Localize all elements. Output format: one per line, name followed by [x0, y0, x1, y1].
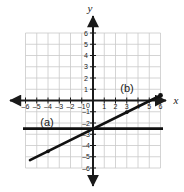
y-tick-label--2: –2 — [82, 120, 90, 127]
y-tick-label-3: 3 — [84, 63, 88, 70]
y-tick-label-5: 5 — [84, 41, 88, 48]
y-tick-label--4: –4 — [82, 142, 90, 149]
curve-label-a: (a) — [40, 116, 53, 128]
y-tick-label-2: 2 — [84, 75, 88, 82]
y-tick-label--1: –1 — [82, 108, 90, 115]
x-tick-label-3: 3 — [125, 103, 129, 110]
y-tick-label-1: 1 — [84, 86, 88, 93]
x-tick-label--4: –4 — [44, 103, 52, 110]
x-tick-label-6: 6 — [159, 103, 163, 110]
x-tick-label--5: –5 — [33, 103, 41, 110]
y-tick-label-6: 6 — [84, 30, 88, 37]
graph-canvas: –6 –5 –4 –3 –2 –1 1 2 3 4 5 6 0 6 5 4 3 … — [0, 0, 184, 192]
y-tick-label--5: –5 — [82, 153, 90, 160]
y-tick-label--6: –6 — [82, 165, 90, 172]
x-tick-label-5: 5 — [147, 103, 151, 110]
y-axis-label: y — [87, 2, 93, 14]
y-tick-label-4: 4 — [84, 52, 88, 59]
x-tick-label-2: 2 — [114, 103, 118, 110]
series-b-point-end — [158, 93, 163, 98]
series-b-point-lower — [46, 149, 50, 153]
x-tick-label--6: –6 — [22, 103, 30, 110]
x-tick-label--2: –2 — [67, 103, 75, 110]
x-tick-label-1: 1 — [102, 103, 106, 110]
curve-label-b: (b) — [120, 82, 133, 94]
coordinate-plane-figure: –6 –5 –4 –3 –2 –1 1 2 3 4 5 6 0 6 5 4 3 … — [0, 0, 184, 192]
series-b-point-mid — [125, 110, 129, 114]
x-axis-label: x — [173, 94, 179, 106]
x-tick-label--3: –3 — [55, 103, 63, 110]
